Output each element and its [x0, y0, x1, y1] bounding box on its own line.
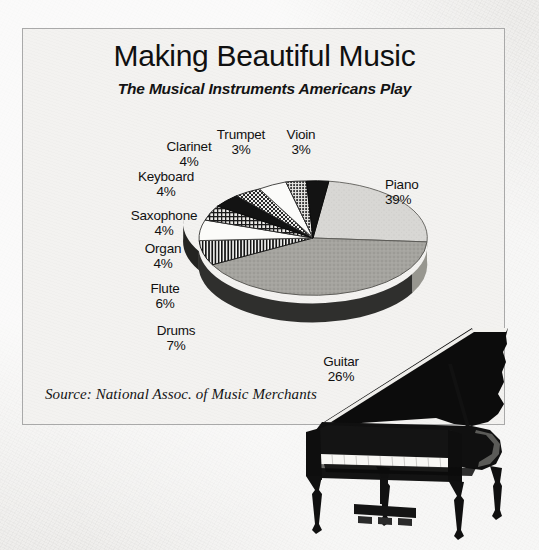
- piano-cheek-right: [448, 430, 462, 484]
- callout-drums-label: Drums: [157, 323, 196, 338]
- callout-organ-label: Organ: [145, 241, 182, 256]
- piano-cheek-left: [306, 428, 322, 480]
- piano-lid-edge: [472, 328, 508, 332]
- callout-keyboard: Keyboard 4%: [123, 169, 209, 199]
- piano-lid: [324, 328, 508, 426]
- callout-violin-label: Vioin: [287, 127, 316, 142]
- callout-flute: Flute 6%: [129, 281, 201, 311]
- callout-violin: Vioin 3%: [270, 127, 332, 157]
- callout-keyboard-label: Keyboard: [138, 169, 194, 184]
- callout-clarinet: Clarinet 4%: [151, 139, 227, 169]
- callout-piano-value: 39%: [385, 192, 471, 207]
- callout-clarinet-label: Clarinet: [167, 139, 212, 154]
- callout-violin-value: 3%: [270, 142, 332, 157]
- callout-piano: Piano 39%: [385, 177, 471, 207]
- callout-saxophone-label: Saxophone: [131, 208, 198, 223]
- callout-clarinet-value: 4%: [151, 154, 227, 169]
- callout-piano-label: Piano: [385, 177, 419, 192]
- grand-piano-illustration: [276, 318, 539, 550]
- piano-pedal-lyre: [354, 478, 416, 526]
- callout-saxophone-value: 4%: [117, 223, 211, 238]
- callout-keyboard-value: 4%: [123, 184, 209, 199]
- callout-saxophone: Saxophone 4%: [117, 208, 211, 238]
- callout-organ: Organ 4%: [123, 241, 203, 271]
- callout-organ-value: 4%: [123, 256, 203, 271]
- callout-flute-value: 6%: [129, 296, 201, 311]
- callout-drums: Drums 7%: [139, 323, 213, 353]
- callout-drums-value: 7%: [139, 338, 213, 353]
- callout-flute-label: Flute: [150, 281, 179, 296]
